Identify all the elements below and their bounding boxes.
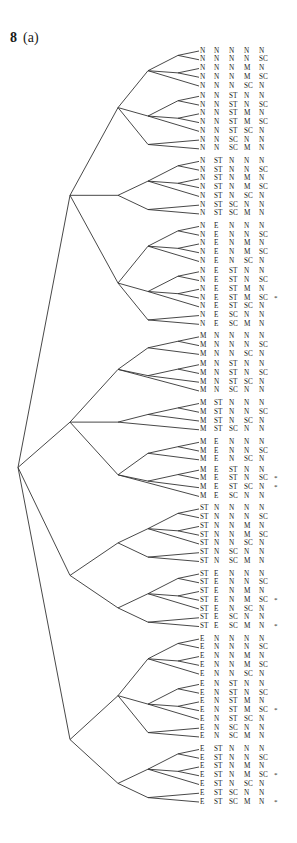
- leaf-row: NENSCN: [200, 257, 273, 266]
- tree-branch: [118, 529, 148, 543]
- leaf-cell: N: [244, 504, 259, 513]
- leaf-cell: ST: [214, 771, 229, 780]
- leaf-cell: N: [244, 613, 259, 622]
- tree-branch: [178, 513, 199, 517]
- leaf-cell: N: [244, 399, 259, 408]
- tree-branch: [118, 543, 148, 557]
- leaf-cell: M: [244, 183, 259, 192]
- leaf-cell: N: [229, 73, 244, 82]
- leaf-cell: ST: [200, 587, 214, 596]
- tree-branch: [178, 365, 199, 369]
- tree-branch: [148, 754, 178, 769]
- leaf-cell: N: [259, 680, 273, 689]
- leaf-cell: E: [214, 302, 229, 311]
- leaf-cell: N: [244, 231, 259, 240]
- tree-branch: [148, 140, 199, 144]
- leaf-cell: N: [244, 369, 259, 378]
- leaf-cell: N: [229, 745, 244, 754]
- leaf-cell: N: [244, 47, 259, 56]
- tree-branch: [178, 689, 199, 693]
- tree-branch: [118, 422, 199, 430]
- leaf-cell: SC: [244, 302, 259, 311]
- leaf-cell: M: [244, 73, 259, 82]
- leaf-cell: N: [200, 302, 214, 311]
- leaf-cell: N: [229, 248, 244, 257]
- leaf-cell: ST: [200, 557, 214, 566]
- marker-star: *: [274, 622, 278, 630]
- leaf-row: ENSTMN: [200, 697, 273, 706]
- tree-branch: [178, 276, 199, 280]
- leaf-cell: N: [200, 64, 214, 73]
- leaf-row: NNSCNN: [200, 136, 273, 145]
- leaf-cell: M: [244, 531, 259, 540]
- leaf-cell: N: [259, 127, 273, 136]
- leaf-cell: M: [244, 64, 259, 73]
- leaf-cell: M: [244, 596, 259, 605]
- leaf-row: ENNMN: [200, 652, 273, 661]
- leaf-row: MENSCN: [200, 455, 273, 464]
- leaf-cell: N: [200, 55, 214, 64]
- leaf-cell: N: [244, 474, 259, 483]
- tree-branch: [178, 244, 199, 248]
- leaf-cell: N: [244, 513, 259, 522]
- tree-branch: [148, 210, 199, 214]
- leaf-cell: N: [229, 652, 244, 661]
- leaf-row: MENNN: [200, 438, 273, 447]
- leaf-cell: N: [214, 101, 229, 110]
- tree-branch: [178, 574, 199, 578]
- leaf-cell: SC: [259, 408, 273, 417]
- leaf-cell: SC: [244, 455, 259, 464]
- leaf-cell: N: [259, 798, 273, 807]
- leaf-cell: N: [200, 209, 214, 218]
- leaf-cell: N: [259, 570, 273, 579]
- leaf-cell: N: [214, 732, 229, 741]
- leaf-cell: N: [259, 670, 273, 679]
- leaf-cell: N: [229, 231, 244, 240]
- leaf-row: ESTNMN: [200, 762, 273, 771]
- leaf-cell: N: [214, 92, 229, 101]
- leaf-cell: N: [259, 635, 273, 644]
- tree-branch: [178, 114, 199, 118]
- leaf-cell: M: [244, 762, 259, 771]
- leaf-cell: N: [259, 557, 273, 566]
- leaf-row: MSTNSCN: [200, 417, 273, 426]
- leaf-cell: SC: [259, 754, 273, 763]
- leaf-cell: E: [200, 643, 214, 652]
- tree-branch: [148, 728, 199, 732]
- leaf-cell: ST: [214, 174, 229, 183]
- leaf-cell: N: [259, 136, 273, 145]
- leaf-cell: SC: [229, 724, 244, 733]
- leaf-row: STNNMSC: [200, 531, 273, 540]
- leaf-cell: N: [229, 82, 244, 91]
- leaf-cell: ST: [214, 798, 229, 807]
- tree-branch: [118, 369, 199, 391]
- leaf-cell: M: [244, 798, 259, 807]
- tree-branch: [178, 767, 199, 771]
- leaf-cell: E: [214, 596, 229, 605]
- leaf-cell: ST: [214, 209, 229, 218]
- tree-branch: [148, 453, 199, 460]
- leaf-cell: N: [259, 548, 273, 557]
- tree-branch: [178, 531, 199, 535]
- tree-branch: [148, 101, 178, 116]
- tree-branch: [178, 226, 199, 230]
- leaf-cell: E: [200, 798, 214, 807]
- leaf-cell: SC: [229, 789, 244, 798]
- leaf-cell: N: [259, 386, 273, 395]
- leaf-cell: E: [200, 635, 214, 644]
- leaf-cell: N: [200, 320, 214, 329]
- tree-branch: [178, 51, 199, 55]
- leaf-row: NENNSC: [200, 231, 273, 240]
- tree-branch: [118, 475, 199, 497]
- leaf-cell: N: [214, 144, 229, 153]
- leaf-cell: ST: [229, 92, 244, 101]
- leaf-cell: ST: [229, 294, 244, 303]
- leaf-row: NESTMN: [200, 285, 273, 294]
- leaf-row: NNSTSCN: [200, 127, 273, 136]
- leaf-cell: N: [214, 661, 229, 670]
- leaf-cell: N: [214, 513, 229, 522]
- leaf-cell: N: [200, 73, 214, 82]
- leaf-cell: SC: [244, 483, 259, 492]
- leaf-row: ESTNNN: [200, 745, 273, 754]
- leaf-cell: N: [200, 276, 214, 285]
